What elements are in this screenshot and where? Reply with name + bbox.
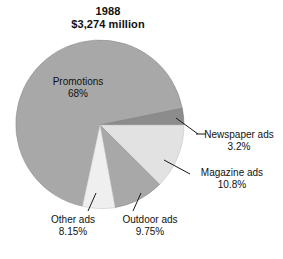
slice-label-magazine-name: Magazine ads bbox=[186, 167, 278, 179]
slice-label-outdoor-percent: 9.75% bbox=[110, 226, 190, 238]
slice-label-other-percent: 8.15% bbox=[38, 226, 108, 238]
slice-label-newspaper-percent: 3.2% bbox=[196, 141, 282, 153]
slice-label-promotions-name: Promotions bbox=[36, 76, 120, 88]
slice-label-newspaper: Newspaper ads 3.2% bbox=[196, 129, 282, 153]
slice-label-promotions: Promotions 68% bbox=[36, 76, 120, 100]
slice-label-other: Other ads 8.15% bbox=[38, 214, 108, 238]
slice-label-magazine: Magazine ads 10.8% bbox=[186, 167, 278, 191]
slice-label-other-name: Other ads bbox=[38, 214, 108, 226]
slice-label-newspaper-name: Newspaper ads bbox=[196, 129, 282, 141]
slice-label-promotions-percent: 68% bbox=[36, 88, 120, 100]
slice-label-outdoor: Outdoor ads 9.75% bbox=[110, 214, 190, 238]
slice-label-outdoor-name: Outdoor ads bbox=[110, 214, 190, 226]
pie-chart: 1988 $3,274 million Promotions 68% Newsp… bbox=[0, 0, 283, 259]
slice-label-magazine-percent: 10.8% bbox=[186, 179, 278, 191]
